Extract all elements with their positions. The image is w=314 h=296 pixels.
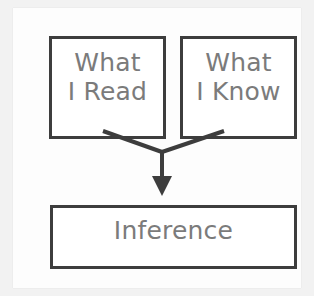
node-what-i-know-label: What I Know (183, 48, 294, 106)
page-sheet: What I Read What I Know Inference (13, 8, 301, 288)
node-what-i-know: What I Know (180, 36, 297, 139)
inference-diagram: What I Read What I Know Inference (0, 0, 314, 296)
node-inference: Inference (50, 205, 297, 269)
node-inference-label: Inference (53, 216, 294, 245)
node-what-i-read-label: What I Read (52, 48, 163, 106)
node-what-i-read: What I Read (49, 36, 166, 139)
